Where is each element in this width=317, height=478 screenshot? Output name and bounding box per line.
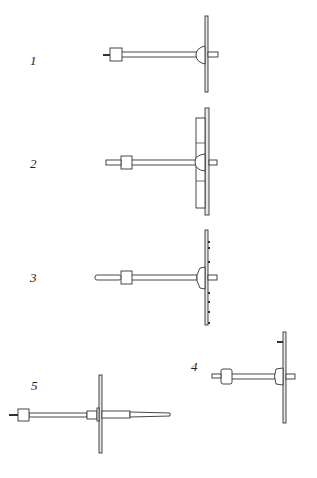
flange: [97, 408, 99, 421]
right-stub: [286, 374, 295, 379]
shaft-left: [29, 413, 87, 417]
variant-1: 1: [30, 16, 218, 92]
left-stub: [212, 374, 221, 378]
hub: [196, 46, 205, 64]
right-stub: [208, 275, 217, 280]
left-tip: [95, 275, 121, 280]
left-stub: [103, 54, 110, 56]
variant-label-5: 5: [31, 378, 38, 393]
shaft: [230, 374, 275, 379]
variant-4: 4: [191, 332, 295, 423]
collar: [18, 409, 29, 421]
shaft: [130, 160, 196, 165]
hub: [275, 368, 284, 385]
collar: [110, 48, 122, 61]
variant-label-3: 3: [29, 270, 37, 285]
left-stub: [9, 414, 18, 416]
left-tip: [106, 160, 121, 165]
variant-3: 3: [29, 230, 217, 325]
collar: [221, 369, 232, 384]
tapered-shaft: [130, 412, 170, 417]
variant-label-1: 1: [30, 53, 37, 68]
shaft: [120, 52, 203, 57]
collar: [121, 271, 132, 284]
plate: [205, 108, 209, 215]
shaft: [130, 275, 197, 280]
variant-label-4: 4: [191, 359, 198, 374]
tab: [277, 341, 283, 343]
sleeve-right: [102, 411, 130, 418]
sleeve: [87, 411, 97, 419]
right-stub: [209, 160, 217, 165]
variant-5: 5: [9, 375, 170, 453]
diagram-canvas: 1 2 3: [0, 0, 317, 478]
hub: [197, 267, 205, 289]
variant-2: 2: [30, 108, 217, 215]
collar: [121, 156, 132, 169]
variant-label-2: 2: [30, 156, 37, 171]
right-stub: [208, 52, 218, 57]
